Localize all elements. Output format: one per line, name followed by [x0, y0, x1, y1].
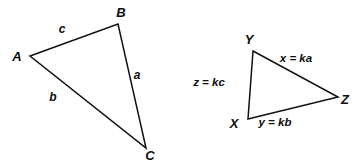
side-label-z-equals-kc: z = kc — [192, 76, 225, 88]
geometry-figure: A B C c a b Y Z X x = ka y = kb z = kc — [0, 0, 363, 164]
vertex-label-a: A — [11, 49, 21, 64]
vertex-label-c: C — [145, 148, 155, 163]
vertex-label-z: Z — [340, 92, 350, 107]
vertex-label-b: B — [116, 5, 125, 20]
vertex-label-y: Y — [245, 32, 255, 47]
similar-triangles-diagram: A B C c a b Y Z X x = ka y = kb z = kc — [0, 0, 363, 164]
side-label-b: b — [49, 90, 56, 104]
triangle-abc-outline — [30, 24, 146, 148]
side-label-x-equals-ka: x = ka — [279, 52, 313, 64]
side-label-a: a — [134, 68, 141, 82]
side-label-y-equals-kb: y = kb — [258, 116, 292, 128]
vertex-label-x: X — [229, 116, 240, 131]
side-label-c: c — [59, 22, 66, 36]
